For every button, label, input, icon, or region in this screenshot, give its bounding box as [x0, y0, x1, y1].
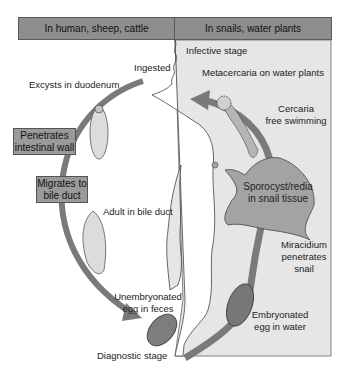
label-excysts: Excysts in duodenum [29, 79, 119, 91]
metacercaria-cyst [217, 96, 231, 110]
adult-fluke [83, 211, 106, 274]
label-metacercaria: Metacercaria on water plants [202, 67, 324, 79]
label-miracidium-line3: snail [270, 263, 338, 275]
label-sporocyst: Sporocyst/redia in snail tissue [238, 181, 318, 205]
excysting-parasite [90, 107, 108, 159]
label-unembryonated: Unembryonated egg in feces [112, 291, 184, 315]
label-cercaria: Cercaria free swimming [256, 103, 336, 127]
label-diagnostic-stage: Diagnostic stage [97, 350, 167, 362]
label-unembryonated-line2: egg in feces [112, 303, 184, 315]
label-cercaria-line2: free swimming [256, 115, 336, 127]
label-miracidium-line1: Miracidium [270, 239, 338, 251]
box-penetrates-line2: intestinal wall [15, 142, 74, 154]
box-migrates-bile-duct: Migrates to bile duct [36, 176, 88, 203]
header-host-left: In human, sheep, cattle [18, 17, 175, 40]
box-migrates-line2: bile duct [43, 190, 80, 202]
header-host-right: In snails, water plants [174, 17, 332, 40]
box-penetrates-line1: Penetrates [20, 130, 68, 142]
human-arm [167, 165, 182, 290]
label-embryonated-line1: Embryonated [244, 309, 316, 321]
snail-tentacle [212, 162, 218, 168]
label-miracidium-line2: penetrates [270, 251, 338, 263]
label-cercaria-line1: Cercaria [256, 103, 336, 115]
label-infective-stage: Infective stage [186, 45, 247, 57]
label-sporocyst-line2: in snail tissue [238, 193, 318, 205]
label-embryonated: Embryonated egg in water [244, 309, 316, 333]
box-penetrates-intestinal-wall: Penetrates intestinal wall [13, 128, 76, 155]
lifecycle-diagram: In human, sheep, cattle In snails, water… [0, 0, 341, 371]
label-sporocyst-line1: Sporocyst/redia [238, 181, 318, 193]
label-unembryonated-line1: Unembryonated [112, 291, 184, 303]
label-adult: Adult in bile duct [103, 206, 173, 218]
label-ingested: Ingested [134, 62, 170, 74]
box-migrates-line1: Migrates to [37, 178, 86, 190]
label-miracidium: Miracidium penetrates snail [270, 239, 338, 275]
label-embryonated-line2: egg in water [244, 321, 316, 333]
excysting-cyst [95, 105, 103, 113]
